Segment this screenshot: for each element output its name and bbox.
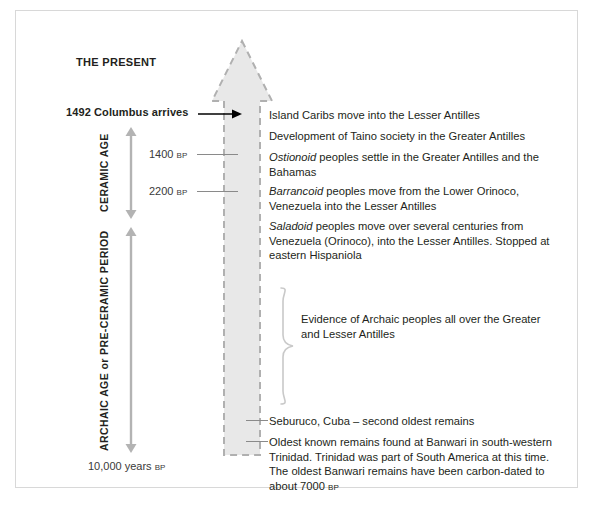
tick-leader-line-seburuco bbox=[246, 420, 268, 421]
columbus-pointer-arrow-icon bbox=[198, 107, 242, 121]
tick-leader-line-1400 bbox=[197, 154, 238, 155]
event-text: Island Caribs move into the Lesser Antil… bbox=[269, 109, 480, 121]
curly-brace-icon bbox=[278, 287, 298, 405]
label-10000-years-bp: 10,000 years BP bbox=[88, 460, 165, 472]
event-entry-taino-society: Development of Taino society in the Grea… bbox=[269, 129, 569, 144]
era-label-ceramic-age: CERAMIC AGE bbox=[98, 129, 110, 217]
scale-value: 10,000 years bbox=[88, 460, 155, 472]
event-text: Development of Taino society in the Grea… bbox=[269, 130, 525, 142]
tick-leader-line-2200 bbox=[197, 191, 238, 192]
event-unit: BP bbox=[328, 483, 339, 492]
label-the-present: THE PRESENT bbox=[76, 56, 156, 68]
scale-unit: BP bbox=[155, 463, 166, 472]
tick-label-2200bp: 2200 BP bbox=[149, 185, 188, 197]
tick-label-1400bp: 1400 BP bbox=[149, 148, 188, 160]
event-entry-seburuco: Seburuco, Cuba – second oldest remains bbox=[269, 414, 569, 429]
timeline-arrow-shape bbox=[206, 35, 278, 461]
archaic-age-range-arrow-icon bbox=[124, 227, 138, 453]
event-entry-barrancoid: Barrancoid peoples move from the Lower O… bbox=[269, 184, 569, 213]
event-entry-saladoid: Saladoid peoples move over several centu… bbox=[269, 219, 569, 263]
ceramic-age-range-arrow-icon bbox=[124, 127, 138, 219]
label-columbus-arrives: 1492 Columbus arrives bbox=[66, 106, 189, 118]
event-entry-banwari: Oldest known remains found at Banwari in… bbox=[269, 435, 569, 495]
era-label-archaic-age: ARCHAIC AGE or PRE-CERAMIC PERIOD bbox=[98, 229, 110, 452]
event-entry-island-caribs: Island Caribs move into the Lesser Antil… bbox=[269, 108, 569, 123]
tick-value-2200: 2200 bbox=[149, 185, 177, 197]
event-culture-name: Barrancoid bbox=[269, 185, 323, 197]
event-text: Oldest known remains found at Banwari in… bbox=[269, 436, 552, 492]
diagram-frame: THE PRESENT 1492 Columbus arrives CERAMI… bbox=[15, 10, 578, 488]
event-culture-name: Ostionoid bbox=[269, 151, 316, 163]
event-culture-name: Saladoid bbox=[269, 220, 313, 232]
event-entry-archaic-evidence: Evidence of Archaic peoples all over the… bbox=[301, 312, 551, 341]
tick-unit-2200: BP bbox=[177, 188, 188, 197]
tick-value-1400: 1400 bbox=[149, 148, 177, 160]
event-entry-ostionoid: Ostionoid peoples settle in the Greater … bbox=[269, 150, 569, 179]
tick-leader-line-banwari bbox=[246, 441, 268, 442]
tick-unit-1400: BP bbox=[177, 151, 188, 160]
